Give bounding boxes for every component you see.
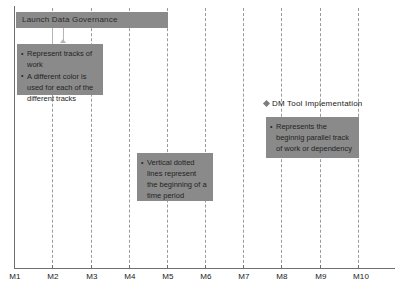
callout-tracks-item-2: A different color is used for each of th… — [21, 72, 98, 105]
milestone-dm-tool-implementation[interactable]: DM Tool Implementation — [264, 99, 363, 108]
gridline-m4 — [129, 8, 130, 268]
tick-label-m2: M2 — [47, 272, 59, 281]
callout-milestone-note: Represents the beginnig parallel track o… — [266, 117, 359, 158]
tick-label-m10: M10 — [353, 272, 369, 281]
gridline-m5 — [167, 8, 168, 268]
callout-gridline-note: Vertical dotted lines represent the begi… — [137, 153, 213, 201]
leader-line-left — [52, 28, 53, 44]
tick-label-m9: M9 — [315, 272, 327, 281]
tick-label-m7: M7 — [238, 272, 250, 281]
tick-label-m3: M3 — [86, 272, 98, 281]
tick-m2 — [52, 265, 53, 269]
task-bar-label: Launch Data Governance — [22, 16, 118, 24]
milestone-label: DM Tool Implementation — [272, 99, 363, 108]
callout-tracks-note: Represent tracks of work A different col… — [17, 44, 103, 95]
gridline-m7 — [243, 8, 244, 268]
tick-label-m1: M1 — [9, 272, 21, 281]
tick-m6 — [205, 265, 206, 269]
tick-m4 — [129, 265, 130, 269]
callout-milestone-item-1: Represents the beginnig parallel track o… — [270, 122, 354, 155]
leader-arrow-icon — [60, 39, 66, 43]
y-axis-line — [14, 6, 15, 268]
tick-label-m5: M5 — [162, 272, 174, 281]
tick-m8 — [281, 265, 282, 269]
tick-m3 — [91, 265, 92, 269]
tick-label-m6: M6 — [200, 272, 212, 281]
diamond-icon — [263, 100, 270, 107]
callout-gridline-item-1: Vertical dotted lines represent the begi… — [141, 158, 208, 202]
tick-m7 — [243, 265, 244, 269]
tick-label-m4: M4 — [124, 272, 136, 281]
task-bar-launch-data-governance[interactable]: Launch Data Governance — [16, 12, 168, 28]
tick-m1 — [14, 265, 15, 269]
tick-m5 — [167, 265, 168, 269]
tick-label-m8: M8 — [276, 272, 288, 281]
gridline-m6 — [205, 8, 206, 268]
tick-m10 — [358, 265, 359, 269]
callout-tracks-item-1: Represent tracks of work — [21, 49, 98, 71]
tick-m9 — [320, 265, 321, 269]
roadmap-timeline-chart: Launch Data Governance Represent tracks … — [0, 0, 409, 294]
